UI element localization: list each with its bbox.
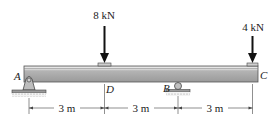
load-label-8kn: 8 kN [93,9,115,21]
dimension-label-ad: 3 m [59,102,76,114]
load-label-4kn: 4 kN [242,21,264,33]
load-plate-c [247,63,258,66]
point-label-a: A [13,70,21,82]
point-label-d: D [105,83,114,95]
beam-diagram: 8 kN 4 kN A D B C 3 m 3 m 3 m [0,0,273,128]
dimension-label-db: 3 m [133,102,150,114]
load-plate-d [98,63,111,66]
point-label-b: B [163,82,170,94]
dimension-label-bc: 3 m [207,102,224,114]
beam [24,66,258,82]
load-arrow-8kn [100,26,109,63]
load-arrow-4kn [248,36,257,63]
point-label-c: C [260,69,268,81]
